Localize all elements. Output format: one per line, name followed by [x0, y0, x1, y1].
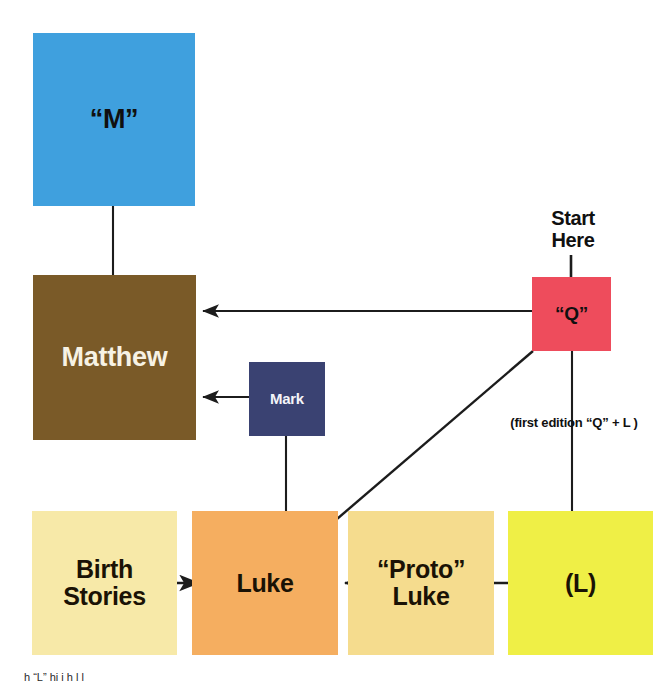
node-birth-stories-label: Birth Stories: [63, 556, 146, 610]
node-mark[interactable]: Mark: [249, 362, 325, 436]
node-m-label: “M”: [90, 105, 139, 134]
start-here-label: Start Here: [528, 207, 618, 252]
node-luke-label: Luke: [236, 570, 293, 597]
node-matthew[interactable]: Matthew: [33, 275, 196, 440]
node-l[interactable]: (L): [508, 511, 653, 655]
node-luke[interactable]: Luke: [192, 511, 338, 655]
node-proto-luke-label: “Proto” Luke: [377, 556, 465, 610]
node-l-label: (L): [565, 570, 596, 597]
diagram-canvas: “M” Matthew “Q” Mark Birth Stories Luke …: [0, 0, 670, 687]
node-q[interactable]: “Q”: [532, 277, 611, 351]
first-edition-annotation: (first edition “Q” + L ): [481, 415, 667, 430]
node-mark-label: Mark: [270, 391, 304, 407]
edge-q-to-luke: [316, 351, 533, 537]
node-proto-luke[interactable]: “Proto” Luke: [348, 511, 494, 655]
node-birth-stories[interactable]: Birth Stories: [32, 511, 177, 655]
footnote-text: h “L” hi i h l l: [24, 671, 644, 687]
node-q-label: “Q”: [555, 304, 588, 325]
node-m[interactable]: “M”: [33, 33, 195, 206]
node-matthew-label: Matthew: [62, 343, 168, 372]
